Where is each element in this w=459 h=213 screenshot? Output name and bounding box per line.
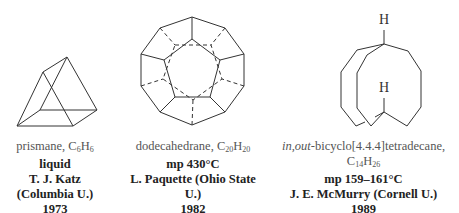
prismane-structure (17, 57, 97, 126)
bicyclotetradecane-structure (341, 30, 421, 126)
chemist-name: T. J. Katz (0, 172, 110, 187)
year: 1973 (0, 202, 110, 213)
compound-property: liquid (0, 157, 110, 172)
hydrogen-label-inner: H (379, 80, 389, 96)
chemist-institution: J. E. McMurry (Cornell U.) (268, 187, 459, 202)
year: 1989 (268, 202, 459, 213)
bicyclotetradecane-caption: in,out-bicyclo[4.4.4]tetradecane, C14H26… (268, 139, 459, 213)
compound-name-line: dodecahedrane, C20H20 (122, 139, 264, 157)
compound-name-line: in,out-bicyclo[4.4.4]tetradecane, C14H26 (268, 139, 459, 172)
hydrogen-label-top: H (379, 12, 389, 28)
prismane-caption: prismane, C6H6 liquid T. J. Katz (Columb… (0, 139, 110, 213)
dodecahedrane-caption: dodecahedrane, C20H20 mp 430°C L. Paquet… (122, 139, 264, 213)
chemist-institution: L. Paquette (Ohio State U.) (122, 172, 264, 202)
year: 1982 (122, 202, 264, 213)
compound-name-line: prismane, C6H6 (0, 139, 110, 157)
dodecahedrane-structure (141, 17, 244, 125)
institution: (Columbia U.) (0, 187, 110, 202)
compound-property: mp 430°C (122, 157, 264, 172)
compound-property: mp 159–161°C (268, 172, 459, 187)
